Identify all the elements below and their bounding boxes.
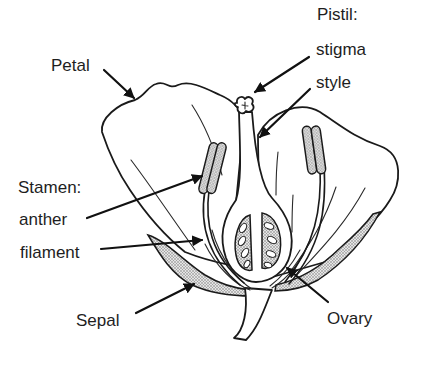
label-pistil: Pistil: (317, 5, 358, 24)
stigma-arrow (255, 57, 309, 92)
label-anther: anther (19, 210, 68, 229)
label-sepal: Sepal (76, 311, 119, 330)
label-ovary: Ovary (327, 309, 373, 328)
label-stamen: Stamen: (18, 178, 81, 197)
flower-diagram: Petal Pistil: stigma style Stamen: anthe… (0, 0, 422, 368)
label-stigma: stigma (316, 40, 367, 59)
label-style: style (316, 73, 351, 92)
label-petal: Petal (51, 56, 90, 75)
petal-arrow (104, 70, 134, 98)
label-filament: filament (20, 243, 80, 262)
stigma (235, 97, 254, 113)
sepal-arrow (136, 284, 194, 313)
